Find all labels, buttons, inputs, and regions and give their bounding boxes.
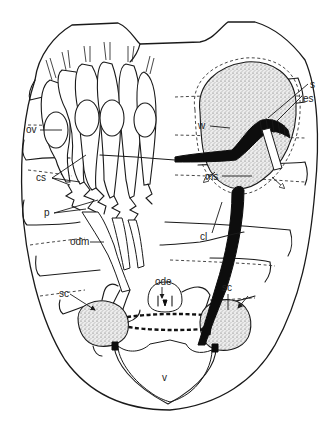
label-ov: ov: [26, 124, 37, 135]
label-ode: ode: [155, 276, 172, 287]
label-sc-left: sc: [59, 288, 69, 299]
label-p: p: [44, 207, 50, 218]
label-w: w: [197, 120, 206, 131]
label-sc-right: sc: [222, 282, 232, 293]
label-v: v: [162, 372, 167, 383]
insect-abdomen-diagram: ov cs p odm ode sc sc v cl ms w s es: [0, 0, 336, 424]
label-cl: cl: [200, 231, 207, 242]
label-es: es: [303, 93, 314, 104]
label-s: s: [310, 79, 315, 90]
label-cs: cs: [36, 172, 46, 183]
label-odm: odm: [70, 236, 89, 247]
label-ms: ms: [205, 171, 218, 182]
